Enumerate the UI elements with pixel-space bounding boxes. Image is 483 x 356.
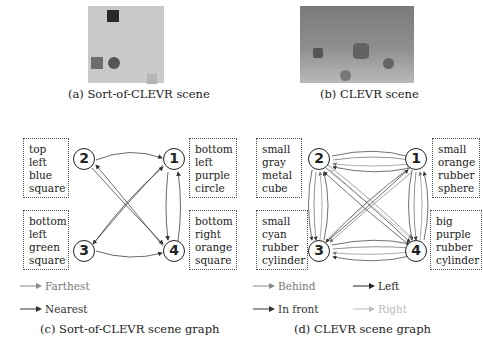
description-node-4: big purple rubber cylinder [430, 210, 482, 270]
node-1: 1 [405, 148, 427, 170]
description-node-3: bottom left green square [23, 210, 69, 270]
desc-line: small [262, 143, 296, 156]
description-node-1: small orange rubber sphere [432, 138, 480, 198]
arrow-icon [353, 283, 375, 289]
desc-line: cylinder [436, 254, 476, 267]
node-1: 1 [163, 148, 185, 170]
legend-in-front: In front [253, 303, 318, 315]
caption-c: (c) Sort-of-CLEVR scene graph [40, 322, 219, 336]
arrow-icon [353, 306, 375, 312]
legend-label: In front [278, 303, 318, 315]
arrow-icon [20, 306, 42, 312]
desc-line: rubber [436, 241, 476, 254]
desc-line: left [29, 228, 63, 241]
legend-label: Farthest [45, 280, 90, 292]
desc-line: left [195, 156, 231, 169]
desc-line: rubber [438, 169, 474, 182]
node-2: 2 [73, 148, 95, 170]
arrow-icon [253, 306, 275, 312]
legend-nearest: Nearest [20, 303, 88, 315]
arrow-icon [20, 283, 42, 289]
description-node-4: bottom right orange square [189, 210, 237, 270]
legend-left: Left [353, 280, 399, 292]
desc-line: purple [195, 169, 231, 182]
node-2: 2 [308, 148, 330, 170]
legend-behind: Behind [253, 280, 316, 292]
desc-line: big [436, 215, 476, 228]
desc-line: top left [29, 143, 63, 169]
description-node-2: top left blue square [23, 138, 69, 198]
legend-label: Behind [278, 280, 316, 292]
desc-line: orange [195, 241, 231, 254]
desc-line: purple [436, 228, 476, 241]
desc-line: rubber [262, 241, 302, 254]
description-node-3: small cyan rubber cylinder [256, 210, 308, 270]
desc-line: cylinder [262, 254, 302, 267]
node-3: 3 [73, 240, 95, 262]
arrow-icon [253, 283, 275, 289]
desc-line: green [29, 241, 63, 254]
desc-line: cyan [262, 228, 302, 241]
legend-label: Right [378, 303, 407, 315]
desc-line: bottom [195, 143, 231, 156]
desc-line: circle [195, 182, 231, 195]
legend-right: Right [353, 303, 407, 315]
desc-line: bottom [195, 215, 231, 228]
description-node-2: small gray metal cube [256, 138, 302, 198]
node-4: 4 [405, 240, 427, 262]
node-3: 3 [308, 240, 330, 262]
node-4: 4 [163, 240, 185, 262]
desc-line: sphere [438, 182, 474, 195]
desc-line: metal [262, 169, 296, 182]
legend-label: Nearest [45, 303, 88, 315]
desc-line: cube [262, 182, 296, 195]
desc-line: square [29, 254, 63, 267]
desc-line: gray [262, 156, 296, 169]
description-node-1: bottom left purple circle [189, 138, 237, 198]
desc-line: right [195, 228, 231, 241]
legend-label: Left [378, 280, 399, 292]
desc-line: bottom [29, 215, 63, 228]
caption-d: (d) CLEVR scene graph [294, 322, 431, 336]
desc-line: orange [438, 156, 474, 169]
desc-line: small [438, 143, 474, 156]
desc-line: square [195, 254, 231, 267]
desc-line: small [262, 215, 302, 228]
desc-line: square [29, 182, 63, 195]
legend-farthest: Farthest [20, 280, 90, 292]
desc-line: blue [29, 169, 63, 182]
